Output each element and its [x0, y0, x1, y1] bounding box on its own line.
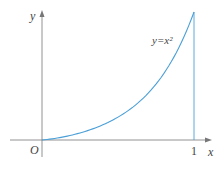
x-axis — [10, 138, 212, 143]
curve-label: y=x² — [152, 35, 173, 46]
y-axis-label: y — [30, 10, 35, 22]
curve-y-equals-x-squared — [42, 12, 194, 140]
x-axis-label: x — [208, 146, 213, 158]
x-axis-arrow-icon — [205, 138, 212, 143]
x-tick-1: 1 — [191, 145, 197, 157]
y-axis — [40, 10, 45, 157]
origin-label: O — [30, 144, 39, 156]
y-axis-arrow-icon — [40, 10, 45, 17]
